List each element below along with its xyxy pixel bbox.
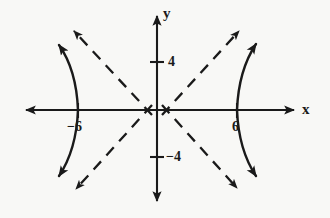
asymptote-positive-slope-lower-left [76, 105, 152, 189]
asymptote-negative-slope-lower-right [162, 105, 237, 188]
tick-label-x-positive-6: 6 [232, 119, 239, 135]
asymptote-positive-slope-upper-right [162, 31, 239, 115]
hyperbola-figure: y x 4 −4 −6 6 [0, 0, 330, 218]
hyperbola-left-branch-upper-arm [59, 45, 78, 110]
x-axis-label: x [302, 101, 310, 118]
hyperbola-right-branch-lower-arm [237, 110, 256, 176]
asymptote-negative-slope-upper-left [74, 31, 152, 115]
tick-label-y-negative-4: −4 [166, 149, 181, 165]
tick-label-y-positive-4: 4 [168, 54, 175, 70]
y-axis-label: y [163, 5, 171, 22]
hyperbola-right-branch-upper-arm [237, 44, 256, 110]
graph-canvas [0, 0, 330, 218]
tick-label-x-negative-6: −6 [67, 119, 82, 135]
